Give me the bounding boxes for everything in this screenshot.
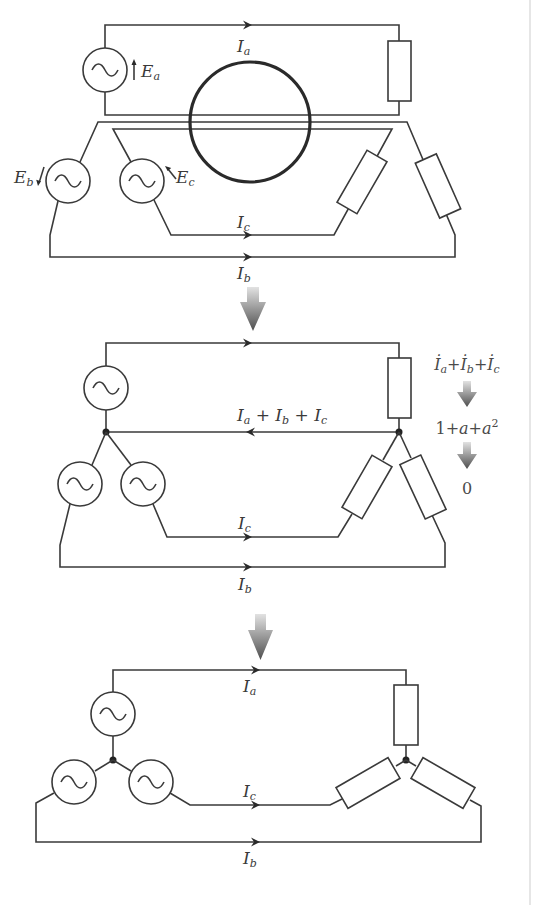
panel-3-star-connection: Ia Ic Ib [36, 666, 481, 871]
emf-arrow-c [168, 169, 176, 179]
source-a [83, 48, 127, 92]
wire-phase-b [60, 504, 445, 567]
load-b [400, 455, 446, 519]
source-c [120, 159, 164, 203]
emf-arrow-b [39, 167, 44, 183]
derivation: İa+İb+İc 1+a+a2 0 [433, 354, 500, 498]
source-b [58, 462, 102, 506]
current-label-b: Ib [236, 263, 251, 285]
wire-phase-a-top [105, 25, 399, 48]
load-c [342, 455, 392, 518]
load-a [388, 41, 411, 101]
source-c [121, 462, 165, 506]
load-b [411, 758, 475, 809]
transform-arrow-1 [240, 287, 266, 331]
wire-phase-a [113, 670, 406, 692]
emf-label-b: Eb [13, 167, 33, 189]
source-b [46, 159, 90, 203]
derivation-step-2: 1+a+a2 [435, 417, 498, 438]
load-a [388, 358, 411, 418]
derivation-arrow-1 [457, 381, 477, 407]
source-a [84, 366, 128, 410]
current-label-a: Ia [242, 676, 256, 698]
load-b [415, 154, 460, 218]
load-c [337, 150, 387, 213]
derivation-step-1: İa+İb+İc [433, 354, 500, 376]
current-label-c: Ic [242, 781, 256, 803]
current-label-c: Ic [236, 212, 250, 234]
source-c [129, 760, 173, 804]
wire-phase-a [106, 343, 399, 366]
emf-label-c: Ec [175, 167, 195, 189]
source-a [91, 692, 135, 736]
derivation-arrow-2 [457, 442, 477, 469]
source-b [52, 760, 96, 804]
load-c [336, 758, 400, 809]
current-label-c: Ic [237, 513, 251, 535]
return-current-label: Ia + Ib + Ic [236, 405, 327, 428]
wire-phase-b [36, 793, 481, 842]
load-a [394, 685, 418, 745]
current-label-a: Ia [236, 36, 250, 58]
panel-1-separate-circuits: Ea Eb Ec Ia Ic Ib [13, 21, 461, 286]
current-label-b: Ib [237, 574, 252, 596]
wire-phase-c [153, 504, 352, 537]
wire-phase-b-top [50, 122, 455, 257]
three-phase-diagram: Ea Eb Ec Ia Ic Ib [0, 0, 537, 905]
panel-2-common-return: Ia + Ib + Ic Ic Ib İa+İb+İc 1+a+a2 0 [58, 339, 500, 597]
current-label-b: Ib [242, 848, 257, 870]
derivation-step-3: 0 [462, 479, 472, 498]
emf-label-a: Ea [140, 61, 160, 83]
transform-arrow-2 [248, 614, 273, 660]
wire-phase-a-return [105, 92, 399, 115]
